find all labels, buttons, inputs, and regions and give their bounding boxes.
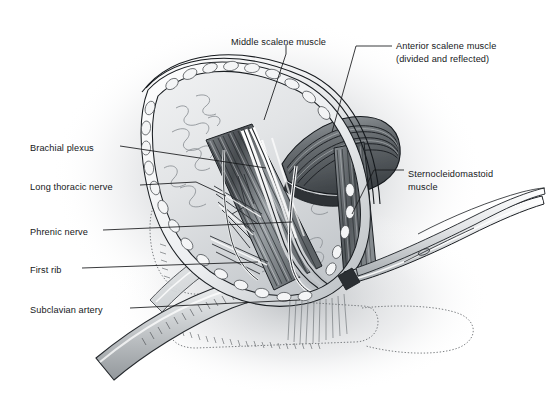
label-long-thoracic-nerve: Long thoracic nerve bbox=[30, 181, 113, 194]
label-subclavian-artery: Subclavian artery bbox=[30, 304, 103, 317]
label-brachial-plexus: Brachial plexus bbox=[30, 142, 94, 155]
label-sternocleidomastoid-muscle: Sternocleidomastoid muscle bbox=[408, 168, 493, 193]
label-middle-scalene-muscle: Middle scalene muscle bbox=[231, 36, 326, 49]
illustration-figure: Middle scalene muscle Anterior scalene m… bbox=[0, 0, 546, 400]
label-first-rib: First rib bbox=[30, 264, 62, 277]
label-anterior-scalene-muscle: Anterior scalene muscle (divided and ref… bbox=[396, 40, 496, 65]
label-phrenic-nerve: Phrenic nerve bbox=[30, 226, 88, 239]
